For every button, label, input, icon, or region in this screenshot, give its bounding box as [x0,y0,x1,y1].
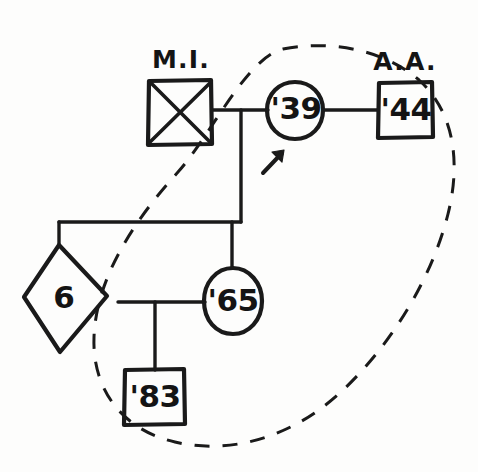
proband-arrow-icon [263,150,284,173]
individual-female-65[interactable]: '65 [204,268,262,334]
year-65: '65 [207,282,258,318]
individual-male-83[interactable]: '83 [124,369,185,425]
deceased-cross-icon [149,82,211,143]
year-44: '44 [380,91,431,127]
pedigree-diagram: M.I. '39 '44 A.A. 6 '65 [0,0,478,472]
individual-male-44[interactable]: '44 A.A. [373,47,436,138]
label-mi: M.I. [152,45,210,74]
individual-deceased-male[interactable]: M.I. [148,45,212,145]
year-39: '39 [270,90,321,126]
label-aa: A.A. [373,47,436,76]
pedigree-canvas: M.I. '39 '44 A.A. 6 '65 [0,0,478,472]
count-6: 6 [53,279,75,315]
individual-proband-female[interactable]: '39 [267,82,323,139]
year-83: '83 [129,378,180,414]
